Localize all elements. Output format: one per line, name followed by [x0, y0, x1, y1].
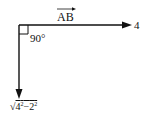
exponent-2: 2	[34, 101, 37, 107]
horizontal-magnitude-label: 4	[134, 20, 140, 31]
angle-label: 90°	[30, 33, 45, 44]
vertical-arrowhead-icon	[16, 89, 23, 99]
vertical-magnitude-label: √42−22	[10, 101, 37, 112]
right-angle-marker-icon	[19, 25, 28, 34]
horizontal-arrowhead-icon	[122, 22, 132, 29]
radicand: 42−22	[16, 101, 38, 112]
vector-label: AB	[57, 11, 74, 23]
